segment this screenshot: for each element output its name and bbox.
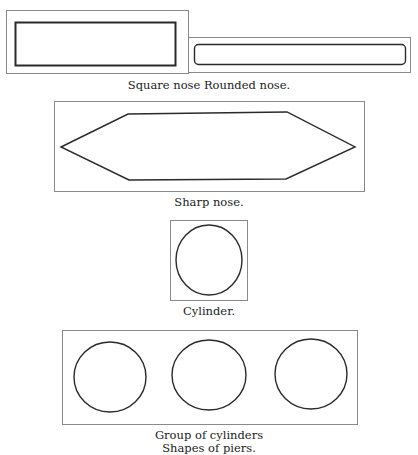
group-of-cylinders-frame: [62, 330, 358, 425]
cylinder-frame: [170, 220, 248, 301]
square-nose-pier: [16, 23, 176, 66]
sharp-nose-frame: [54, 101, 365, 192]
caption-square-rounded-nose: Square nose Rounded nose.: [0, 78, 418, 92]
figure-title: Shapes of piers.: [0, 441, 418, 455]
rounded-nose-pier: [195, 45, 406, 65]
caption-cylinder: Cylinder.: [0, 304, 418, 318]
caption-group-of-cylinders: Group of cylinders: [0, 428, 418, 442]
caption-sharp-nose: Sharp nose.: [0, 195, 418, 209]
